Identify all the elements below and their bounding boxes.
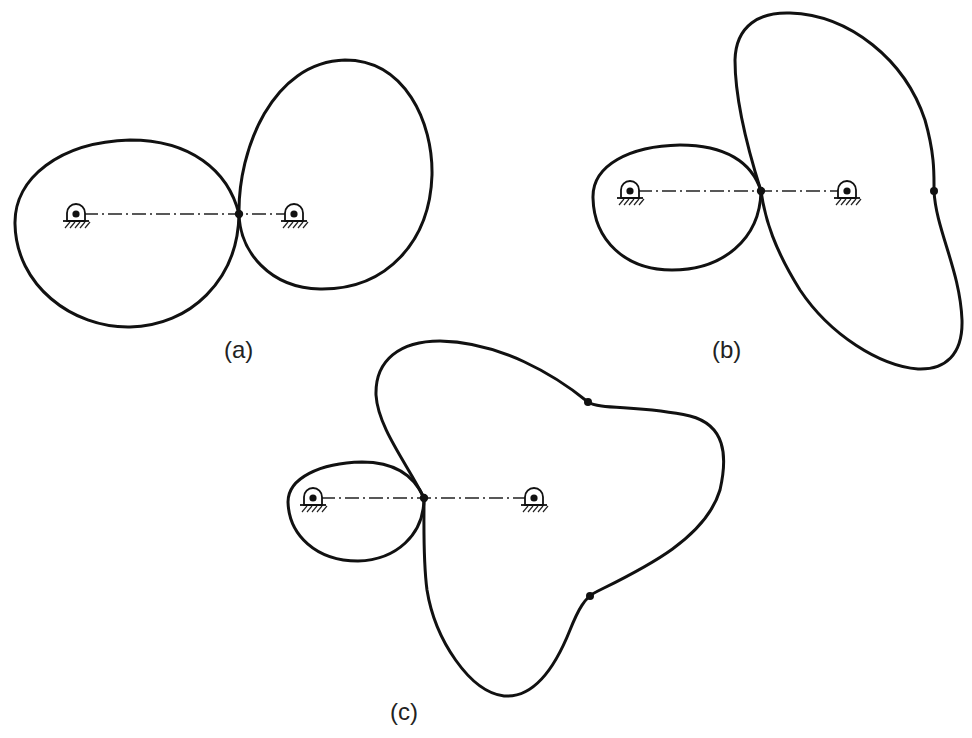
pivot-icon-left-b <box>617 181 644 205</box>
rolling-profiles-diagram <box>0 0 972 738</box>
panel-c <box>288 341 724 696</box>
right-profile-a <box>239 60 432 289</box>
contact-point-a <box>235 210 243 218</box>
panel-label-a: (a) <box>224 338 253 362</box>
profile-node-lower-c <box>586 592 594 600</box>
contact-point-b <box>757 187 765 195</box>
right-profile-c <box>376 341 724 696</box>
panel-b <box>593 13 962 369</box>
panel-a <box>15 60 432 327</box>
pivot-icon-left-c <box>300 488 327 512</box>
pivot-icon-right-a <box>281 204 308 228</box>
left-profile-c <box>288 462 424 561</box>
pivot-icon-right-b <box>834 181 861 205</box>
pivot-icon-right-c <box>521 488 548 512</box>
panel-label-c: (c) <box>390 700 418 724</box>
profile-node-upper-c <box>584 398 592 406</box>
contact-point-c <box>420 494 428 502</box>
left-profile-b <box>593 145 761 270</box>
profile-node-b <box>930 187 938 195</box>
panel-label-b: (b) <box>712 338 741 362</box>
pivot-icon-left-a <box>63 204 90 228</box>
left-profile-a <box>15 140 239 327</box>
